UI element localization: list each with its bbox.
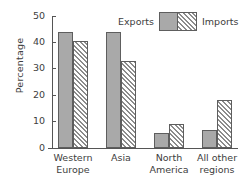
bar-exports-asia[interactable] [106,32,121,148]
x-category-all-other-regions: All other regions [182,152,246,175]
legend-label-imports: Imports [202,16,238,27]
x-axis-line [48,148,238,149]
y-tick-label: 0 [39,142,45,153]
y-tick-label: 10 [33,115,45,126]
bar-exports-western-europe[interactable] [58,32,73,148]
y-tick-label: 20 [33,89,45,100]
y-tick-label: 30 [33,62,45,73]
y-axis-line [52,16,53,148]
y-tick-mark [52,16,56,17]
bar-exports-all-other-regions[interactable] [202,130,217,148]
bar-imports-asia[interactable] [121,61,136,148]
x-category-line2: Europe [38,164,108,176]
y-tick-mark [52,148,56,149]
bar-imports-western-europe[interactable] [73,41,88,148]
y-tick-mark [52,121,56,122]
y-tick-mark [52,95,56,96]
legend-swatch-exports-icon [160,13,178,30]
bar-imports-north-america[interactable] [169,124,184,148]
legend-swatch [159,12,197,31]
y-tick-mark [52,42,56,43]
y-axis-title: Percentage [14,6,25,126]
y-tick-label: 50 [33,10,45,21]
legend-label-exports: Exports [118,16,154,27]
chart-legend: Exports Imports [118,10,239,32]
y-tick-label: 40 [33,36,45,47]
legend-swatch-imports-icon [178,13,196,30]
bar-exports-north-america[interactable] [154,133,169,148]
y-tick-mark [52,68,56,69]
x-category-line2: regions [182,164,246,176]
bar-chart: Percentage 0 10 20 30 40 50 [0,0,246,187]
bar-imports-all-other-regions[interactable] [217,100,232,148]
x-category-line1: All other [182,152,246,164]
plot-area: 0 10 20 30 40 50 [52,16,238,148]
